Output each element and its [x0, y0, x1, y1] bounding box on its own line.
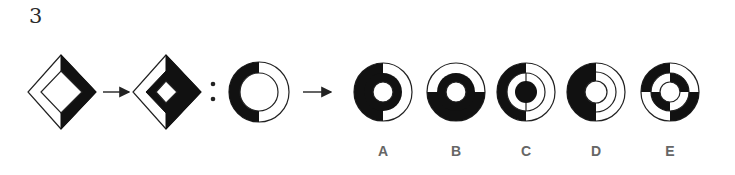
diamond-result-figure	[133, 55, 201, 129]
option-b-figure[interactable]	[427, 63, 485, 121]
option-d-label[interactable]: D	[581, 143, 611, 159]
option-b-label[interactable]: B	[441, 143, 471, 159]
option-a-label[interactable]: A	[368, 143, 398, 159]
option-e-figure[interactable]	[641, 63, 699, 121]
option-c-label[interactable]: C	[511, 143, 541, 159]
ring-source-figure	[229, 62, 289, 122]
option-c-figure[interactable]	[497, 63, 555, 121]
diamond-source-figure	[28, 55, 96, 129]
option-e-label[interactable]: E	[655, 143, 685, 159]
option-d-figure[interactable]	[567, 63, 625, 121]
analogy-colon	[211, 82, 216, 102]
option-a-figure[interactable]	[354, 63, 412, 121]
